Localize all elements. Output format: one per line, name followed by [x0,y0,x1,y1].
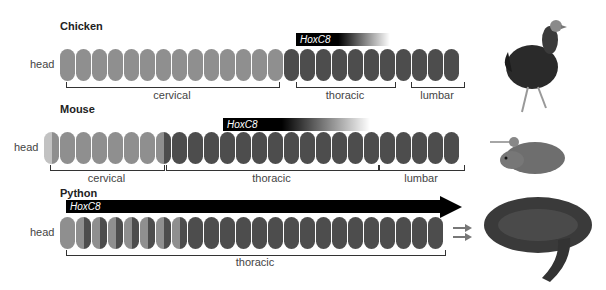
chicken-title: Chicken [60,20,103,32]
vertebra [380,132,395,164]
vertebra [124,49,139,81]
vertebra [252,217,267,249]
vertebra [380,217,395,249]
vertebra [236,49,251,81]
chicken-lumbar-bracket [411,82,465,88]
vertebra [428,49,443,81]
mouse-hoxc8-bar: HoxC8 [223,118,370,131]
vertebra [188,132,203,164]
vertebra [156,49,171,81]
vertebra [348,217,363,249]
vertebra [92,49,107,81]
mouse-image [490,130,570,178]
vertebra [108,49,123,81]
vertebra [364,132,379,164]
python-thoracic-label: thoracic [66,256,444,268]
vertebra [236,132,251,164]
vertebra [204,132,219,164]
vertebra [252,132,267,164]
vertebra [444,132,459,164]
python-hox-arrowhead-icon [440,196,462,218]
vertebra [364,49,379,81]
vertebra [300,132,315,164]
vertebra [76,217,91,249]
python-vertebrae [60,217,443,249]
vertebra [396,217,411,249]
vertebra [140,49,155,81]
vertebra [60,132,75,164]
vertebra [124,132,139,164]
vertebra [220,49,235,81]
vertebra [172,132,187,164]
vertebra [412,132,427,164]
mouse-lumbar-bracket [379,165,465,171]
vertebra [76,132,91,164]
vertebra [284,49,299,81]
vertebra [204,49,219,81]
vertebra [364,217,379,249]
vertebra [92,132,107,164]
vertebra [268,49,283,81]
vertebra [268,217,283,249]
mouse-head-label: head [14,141,38,153]
python-hoxc8-bar: HoxC8 [66,200,444,213]
vertebra [284,132,299,164]
mouse-cervical-bracket [50,165,165,171]
vertebra [316,132,331,164]
vertebra [140,132,155,164]
vertebra [428,217,443,249]
vertebra [76,49,91,81]
python-head-label: head [30,226,54,238]
mouse-vertebrae [44,132,459,164]
vertebra [332,132,347,164]
mouse-thoracic-bracket [166,165,379,171]
vertebra [396,49,411,81]
mouse-thoracic-label: thoracic [166,172,377,184]
mouse-cervical-label: cervical [50,172,163,184]
chicken-thoracic-bracket [296,82,396,88]
chicken-thoracic-label: thoracic [296,89,394,101]
vertebra [220,217,235,249]
vertebra [380,49,395,81]
chicken-cervical-label: cervical [66,89,278,101]
chicken-image [500,12,570,117]
vertebra [300,49,315,81]
vertebra [60,217,75,249]
vertebra [428,132,443,164]
vertebra [156,217,171,249]
chicken-lumbar-label: lumbar [411,89,463,101]
vertebra [92,217,107,249]
vertebra [108,132,123,164]
vertebra [348,132,363,164]
chicken-hoxc8-bar: HoxC8 [296,33,390,46]
vertebra [252,49,267,81]
vertebra [140,217,155,249]
vertebra [124,217,139,249]
vertebra [412,217,427,249]
vertebral-hox-diagram: Chicken HoxC8 head cervical thoracic lum… [0,0,606,290]
vertebra [412,49,427,81]
vertebra [188,49,203,81]
vertebra [220,132,235,164]
vertebra [268,132,283,164]
vertebra [348,49,363,81]
vertebra [332,49,347,81]
chicken-vertebrae [60,49,459,81]
vertebra [172,49,187,81]
vertebra [316,217,331,249]
continues-arrows-icon [453,224,473,242]
vertebra [444,49,459,81]
vertebra [44,132,59,164]
mouse-lumbar-label: lumbar [379,172,463,184]
mouse-title: Mouse [60,103,95,115]
python-image [480,190,600,285]
vertebra [316,49,331,81]
vertebra [236,217,251,249]
vertebra [396,132,411,164]
vertebra [60,49,75,81]
vertebra [300,217,315,249]
vertebra [172,217,187,249]
vertebra [204,217,219,249]
vertebra [332,217,347,249]
chicken-cervical-bracket [66,82,280,88]
